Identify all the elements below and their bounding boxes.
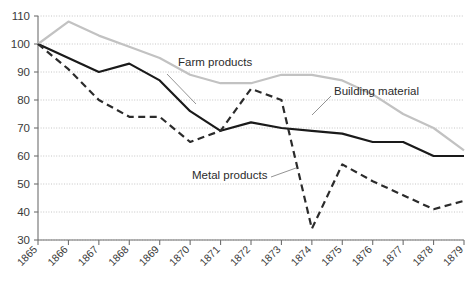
x-axis-tick-label: 1877: [380, 243, 405, 268]
x-axis-tick-label: 1879: [440, 243, 465, 268]
x-axis-tick-label: 1866: [45, 243, 70, 268]
x-axis-tick-label: 1865: [14, 243, 39, 268]
x-axis-tick-label: 1876: [349, 243, 374, 268]
x-axis-tick-label: 1867: [75, 243, 100, 268]
y-axis-tick-label: 110: [12, 10, 30, 22]
x-axis-tick-label: 1869: [136, 243, 161, 268]
y-axis-tick-label: 100: [11, 38, 30, 50]
x-axis-tick-label: 1874: [288, 243, 313, 268]
y-axis-tick-label: 30: [17, 234, 30, 246]
chart-canvas: 30405060708090100110 1865186618671868186…: [0, 0, 474, 287]
annotation-leader-line: [271, 168, 296, 177]
y-axis-tick-label: 90: [17, 66, 30, 78]
annotation-label-farm-products: Farm products: [178, 56, 252, 68]
x-axis-tick-label: 1878: [410, 243, 435, 268]
annotation-label-metal-products: Metal products: [192, 169, 268, 181]
y-axis-ticks-group: [34, 16, 38, 240]
x-axis-labels-group: 1865186618671868186918701871187218731874…: [14, 243, 465, 268]
x-axis-tick-label: 1870: [167, 243, 192, 268]
y-axis-tick-label: 50: [17, 178, 30, 190]
annotation-leader-line: [167, 74, 196, 104]
annotation-label-building-material: Building material: [334, 85, 419, 97]
line-chart: 30405060708090100110 1865186618671868186…: [0, 0, 474, 287]
x-axis-tick-label: 1868: [106, 243, 131, 268]
data-series-group: [38, 22, 464, 229]
gridlines-group: [38, 16, 464, 240]
x-axis-ticks-group: [38, 240, 464, 245]
x-axis-tick-label: 1871: [197, 243, 222, 268]
y-axis-labels-group: 30405060708090100110: [11, 10, 30, 246]
y-axis-tick-label: 60: [17, 150, 30, 162]
x-axis-tick-label: 1875: [319, 243, 344, 268]
x-axis-tick-label: 1872: [227, 243, 252, 268]
y-axis-tick-label: 70: [17, 122, 30, 134]
x-axis-tick-label: 1873: [258, 243, 283, 268]
y-axis-tick-label: 40: [17, 206, 30, 218]
annotation-leader-line: [312, 96, 331, 115]
y-axis-tick-label: 80: [17, 94, 30, 106]
annotation-leader-lines-group: [167, 74, 331, 177]
